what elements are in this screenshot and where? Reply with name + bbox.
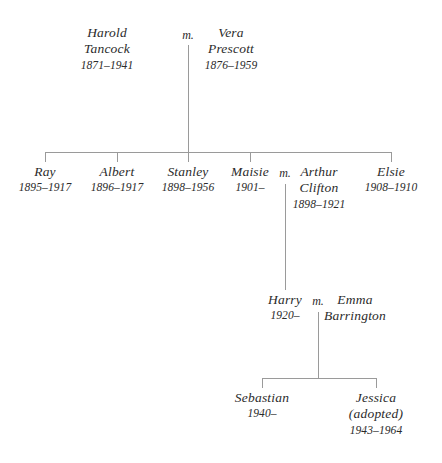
family-tree-diagram: Harold Tancock 1871–1941 m. Vera Prescot… (0, 0, 442, 463)
person-name-line2: Clifton (288, 180, 350, 196)
person-dates: 1901– (219, 180, 281, 194)
person-dates: 1876–1959 (196, 58, 266, 72)
person-emma: Emma Barrington (318, 292, 392, 325)
drop-line-sebastian (262, 378, 263, 388)
drop-line-jessica (376, 378, 377, 388)
person-name-line1: Sebastian (220, 390, 304, 406)
sibling-bar-gen2 (45, 152, 392, 153)
person-name-line2: Tancock (72, 41, 142, 57)
person-name-line2: Prescott (196, 41, 266, 57)
drop-line-albert (117, 152, 118, 162)
person-dates: 1943–1964 (334, 423, 418, 437)
person-sebastian: Sebastian 1940– (220, 390, 304, 420)
person-name-line1: Jessica (334, 390, 418, 406)
person-ray: Ray 1895–1917 (10, 164, 80, 194)
person-jessica: Jessica (adopted) 1943–1964 (334, 390, 418, 437)
person-dates: 1871–1941 (72, 58, 142, 72)
person-dates: 1896–1917 (82, 180, 152, 194)
person-name-line1: Albert (82, 164, 152, 180)
person-name-line1: Elsie (356, 164, 426, 180)
person-name-line1: Ray (10, 164, 80, 180)
person-name-line2: Barrington (318, 308, 392, 324)
sibling-bar-gen4 (262, 378, 377, 379)
person-elsie: Elsie 1908–1910 (356, 164, 426, 194)
person-name-line1: Stanley (153, 164, 223, 180)
person-dates: 1908–1910 (356, 180, 426, 194)
person-dates: 1898–1921 (288, 197, 350, 211)
drop-line-ray (45, 152, 46, 162)
marriage-line-gen1 (188, 45, 189, 152)
person-name-line1: Arthur (288, 164, 350, 180)
person-name-line1: Emma (318, 292, 392, 308)
drop-line-maisie (250, 152, 251, 162)
person-vera: Vera Prescott 1876–1959 (196, 25, 266, 72)
person-arthur: Arthur Clifton 1898–1921 (288, 164, 350, 211)
person-dates: 1895–1917 (10, 180, 80, 194)
person-dates: 1898–1956 (153, 180, 223, 194)
person-name-line1: Vera (196, 25, 266, 41)
person-name-line1: Harold (72, 25, 142, 41)
marriage-line-gen3 (318, 312, 319, 378)
drop-line-stanley (188, 152, 189, 162)
person-name-line2: (adopted) (334, 406, 418, 422)
person-dates: 1920– (254, 308, 316, 322)
person-dates: 1940– (220, 406, 304, 420)
drop-line-elsie (391, 152, 392, 162)
person-albert: Albert 1896–1917 (82, 164, 152, 194)
person-stanley: Stanley 1898–1956 (153, 164, 223, 194)
person-harold: Harold Tancock 1871–1941 (72, 25, 142, 72)
marriage-line-gen2 (285, 184, 286, 290)
